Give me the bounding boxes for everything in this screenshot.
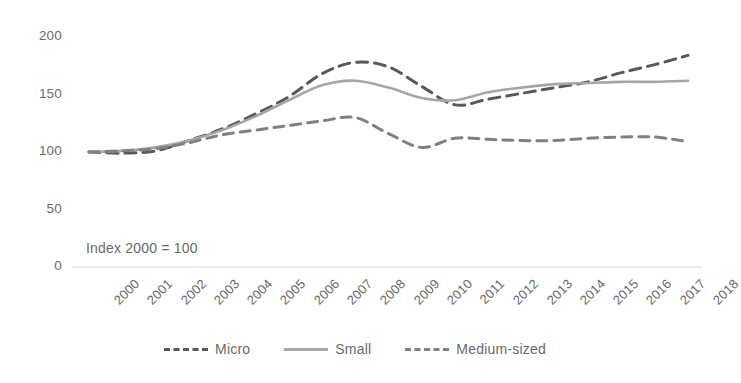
legend-item-micro[interactable]: Micro [164,341,250,357]
legend-label: Medium-sized [456,341,546,357]
series-line-small [89,81,688,152]
legend-label: Micro [215,341,250,357]
legend-item-small[interactable]: Small [284,341,371,357]
legend-swatch-icon [284,348,328,351]
legend-swatch-icon [164,348,208,351]
x-tick-label: 2018 [710,276,741,308]
y-tick-label: 200 [18,28,62,43]
y-tick-label: 150 [18,86,62,101]
legend-swatch-icon [405,348,449,351]
y-tick-label: 100 [18,143,62,158]
chart-legend: MicroSmallMedium-sized [0,341,710,357]
legend-item-medium-sized[interactable]: Medium-sized [405,341,546,357]
index-base-annotation: Index 2000 = 100 [86,240,198,256]
y-tick-label: 0 [18,258,62,273]
series-line-medium-sized [89,117,688,152]
y-tick-label: 50 [18,201,62,216]
legend-label: Small [335,341,371,357]
